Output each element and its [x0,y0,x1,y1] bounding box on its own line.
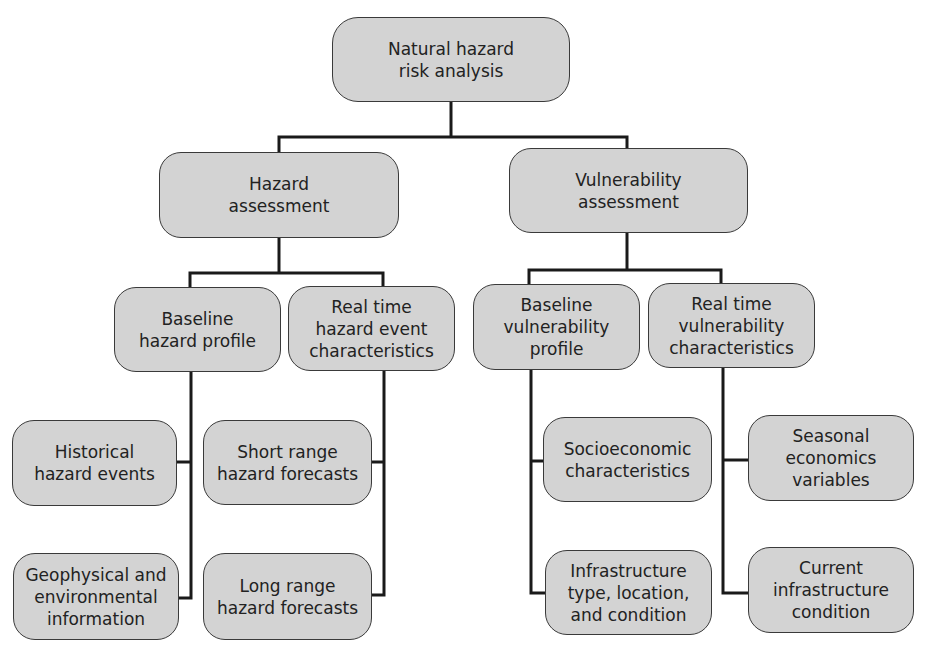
node-vulnerability-assessment: Vulnerability assessment [509,148,748,233]
node-long-range-hazard-forecasts: Long range hazard forecasts [203,553,372,640]
node-short-range-hazard-forecasts: Short range hazard forecasts [203,420,372,505]
node-seasonal-economics-variables: Seasonal economics variables [748,415,914,501]
node-infrastructure-type-location-condition: Infrastructure type, location, and condi… [545,550,712,635]
node-geophysical-environmental-information: Geophysical and environmental informatio… [13,553,179,640]
connector-rt-vuln [723,368,748,593]
node-baseline-hazard-profile: Baseline hazard profile [114,287,281,372]
node-hazard-assessment: Hazard assessment [159,152,399,238]
connector-vuln-bus [529,270,721,284]
connector-hazard-bus [190,273,383,287]
node-real-time-vulnerability-characteristics: Real time vulnerability characteristics [648,283,815,368]
node-historical-hazard-events: Historical hazard events [12,420,177,506]
connector-base-haz [179,372,191,598]
connector-rt-haz [372,371,384,595]
node-real-time-hazard-event-characteristics: Real time hazard event characteristics [288,286,455,371]
node-natural-hazard-risk-analysis: Natural hazard risk analysis [332,17,570,102]
node-current-infrastructure-condition: Current infrastructure condition [748,547,914,633]
node-baseline-vulnerability-profile: Baseline vulnerability profile [473,284,640,370]
node-socioeconomic-characteristics: Socioeconomic characteristics [543,417,712,502]
